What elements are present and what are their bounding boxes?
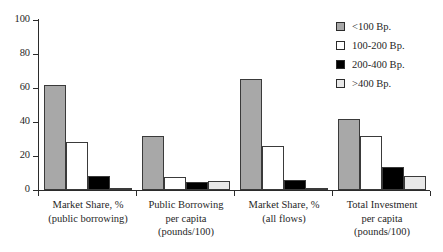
bar-g1-s1 (164, 177, 186, 190)
bar-g0-s3 (110, 188, 132, 190)
bar-g2-s0 (240, 79, 262, 190)
legend: <100 Bp. 100-200 Bp. 200-400 Bp. >400 Bp… (336, 17, 441, 93)
legend-label-0: <100 Bp. (352, 21, 391, 32)
bar-g3-s1 (360, 136, 382, 190)
bar-g3-s2 (382, 167, 404, 190)
bar-g0-s1 (66, 142, 88, 190)
bar-g0-s2 (88, 176, 110, 190)
legend-label-1: 100-200 Bp. (352, 40, 405, 51)
bar-g1-s0 (142, 136, 164, 190)
x-tick-mark-3 (332, 191, 333, 196)
legend-item-2: 200-400 Bp. (336, 55, 441, 74)
legend-swatch-icon-2 (336, 60, 345, 69)
legend-label-2: 200-400 Bp. (352, 59, 405, 70)
legend-swatch-icon-3 (336, 79, 345, 88)
x-tick-mark-4 (430, 191, 431, 196)
bar-g2-s1 (262, 146, 284, 190)
legend-label-3: >400 Bp. (352, 78, 391, 89)
legend-item-1: 100-200 Bp. (336, 36, 441, 55)
legend-item-0: <100 Bp. (336, 17, 441, 36)
bar-g3-s3 (404, 176, 426, 190)
bar-g2-s2 (284, 180, 306, 190)
x-group-label-3: Total Investment per capita (pounds/100) (322, 198, 442, 239)
legend-swatch-icon-1 (336, 41, 345, 50)
x-tick-mark-0 (38, 191, 39, 196)
x-tick-mark-2 (234, 191, 235, 196)
bar-g1-s2 (186, 182, 208, 190)
legend-item-3: >400 Bp. (336, 74, 441, 93)
bar-chart: 100 80 60 40 20 0 (0, 0, 443, 252)
bar-g1-s3 (208, 181, 230, 190)
legend-swatch-icon-0 (336, 22, 345, 31)
bar-g0-s0 (44, 85, 66, 190)
bar-g2-s3 (306, 188, 328, 190)
bar-g3-s0 (338, 119, 360, 190)
x-tick-mark-1 (136, 191, 137, 196)
